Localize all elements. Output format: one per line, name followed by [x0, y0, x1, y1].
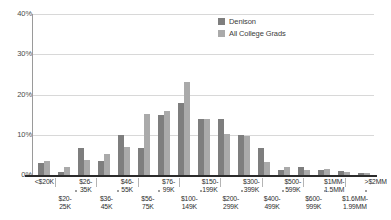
x-axis-tick-label-line: 299K: [214, 203, 248, 211]
x-axis-tick-label: $300-399K: [234, 178, 268, 194]
x-axis-tick-label: $46-55K: [110, 178, 144, 194]
x-axis-tick-label: $200-299K: [214, 195, 248, 211]
bar: [324, 169, 330, 175]
bar: [58, 172, 64, 175]
bar: [278, 170, 284, 175]
bar: [344, 172, 350, 175]
legend-swatch-icon: [218, 30, 225, 37]
x-axis-tick-label-line: 599K: [276, 186, 310, 194]
bar-group: [314, 14, 334, 175]
x-axis-separator: [262, 178, 263, 187]
bar: [198, 119, 204, 175]
x-axis-tick-label: $150-199K: [193, 178, 227, 194]
x-axis-separator: [200, 190, 202, 192]
x-axis-tick-label-line: $400-: [255, 195, 289, 203]
bar-group: [74, 14, 94, 175]
bar-group: [294, 14, 314, 175]
x-axis-tick-label-line: $200-: [214, 195, 248, 203]
bar: [164, 111, 170, 175]
x-axis-tick-label-line: <$20K: [27, 178, 61, 186]
x-axis-separator: [365, 190, 367, 192]
x-axis-tick-label: $20-25K: [48, 195, 82, 211]
x-axis-tick-label-line: 199K: [193, 186, 227, 194]
x-axis-tick-label: $36-45K: [89, 195, 123, 211]
bar: [358, 173, 364, 175]
bar: [184, 82, 190, 175]
y-axis-line: [32, 14, 33, 176]
bar: [158, 115, 164, 175]
bar: [244, 136, 250, 175]
x-axis-tick-label-line: 1.99MM: [338, 203, 372, 211]
x-axis-tick-label: $26-35K: [69, 178, 103, 194]
x-axis-separator: [117, 190, 119, 192]
x-axis-tick-label: $500-599K: [276, 178, 310, 194]
bar: [104, 154, 110, 175]
x-axis-separator: [345, 178, 346, 187]
bar-group: [34, 14, 54, 175]
x-axis-tick-label-line: >$2MM: [359, 178, 391, 186]
bar-group: [194, 14, 214, 175]
bar: [178, 103, 184, 175]
bar: [44, 161, 50, 175]
x-axis-tick-label-line: $76-: [152, 178, 186, 186]
bar: [124, 147, 130, 175]
x-axis-tick-label-line: 999K: [297, 203, 331, 211]
x-axis-tick-label-line: $300-: [234, 178, 268, 186]
bar: [258, 148, 264, 175]
bar-group: [334, 14, 354, 175]
bar-group: [174, 14, 194, 175]
x-axis-separator: [75, 190, 77, 192]
x-axis-tick-label-line: $100-: [172, 195, 206, 203]
x-axis-tick-label-line: $36-: [89, 195, 123, 203]
x-axis-tick-label-line: 45K: [89, 203, 123, 211]
legend-swatch-icon: [218, 18, 225, 25]
legend-item[interactable]: Denison: [218, 16, 286, 27]
x-axis-tick-label-line: $20-: [48, 195, 82, 203]
x-axis-tick-label-line: $56-: [131, 195, 165, 203]
x-axis-tick-label: $100-149K: [172, 195, 206, 211]
x-axis-tick-label-line: 75K: [131, 203, 165, 211]
x-axis-tick-label-line: 55K: [110, 186, 144, 194]
x-axis-tick-label-line: 399K: [234, 186, 268, 194]
x-axis-line: [25, 175, 377, 177]
x-axis-separator: [96, 178, 97, 187]
x-axis-tick-label-line: $600-: [297, 195, 331, 203]
bar: [78, 148, 84, 175]
x-axis-tick-label-line: $1MM-: [317, 178, 351, 186]
bar-group: [154, 14, 174, 175]
x-axis-tick-label: $1MM-1.5MM: [317, 178, 351, 194]
bar: [224, 134, 230, 175]
x-axis-tick-label-line: $1.6MM-: [338, 195, 372, 203]
y-axis-ticks: 0%10%20%30%40%: [0, 14, 32, 175]
bar: [304, 170, 310, 175]
legend-label: All College Grads: [229, 29, 286, 38]
y-axis-tick-label: 10%: [4, 130, 32, 139]
x-axis-tick-label-line: $500-: [276, 178, 310, 186]
bar: [144, 114, 150, 175]
bar: [218, 119, 224, 175]
x-axis-tick-label-line: 25K: [48, 203, 82, 211]
y-axis-tick-label: 20%: [4, 90, 32, 99]
x-axis-tick-label-line: $26-: [69, 178, 103, 186]
bar: [318, 170, 324, 175]
bar-group: [354, 14, 374, 175]
bar: [238, 135, 244, 175]
x-axis-separator: [282, 190, 284, 192]
bar: [118, 135, 124, 175]
x-axis-tick-label-line: $150-: [193, 178, 227, 186]
bar: [98, 161, 104, 175]
x-axis-tick-label: $1.6MM-1.99MM: [338, 195, 372, 211]
x-axis-separator: [158, 190, 160, 192]
bar-group: [94, 14, 114, 175]
x-axis-tick-label-line: 499K: [255, 203, 289, 211]
bar-group: [114, 14, 134, 175]
x-axis-tick-label-line: $46-: [110, 178, 144, 186]
x-axis-separator: [220, 178, 221, 187]
bar: [84, 160, 90, 175]
x-axis-tick-label: $76-99K: [152, 178, 186, 194]
y-axis-tick-label: 30%: [4, 49, 32, 58]
x-axis-separator: [241, 190, 243, 192]
x-axis-separator: [55, 178, 56, 187]
legend-item[interactable]: All College Grads: [218, 28, 286, 39]
